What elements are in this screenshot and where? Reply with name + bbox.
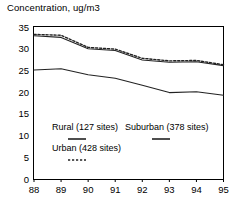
- data-series-group: [34, 34, 224, 95]
- x-tick-label: 89: [56, 184, 67, 195]
- x-tick-label: 91: [110, 184, 121, 195]
- y-tick-label: 30: [18, 43, 29, 54]
- x-tick-label: 94: [191, 184, 202, 195]
- y-tick-label: 15: [18, 108, 29, 119]
- legend-label: Suburban (378 sites): [125, 122, 209, 132]
- y-tick-label: 25: [18, 65, 29, 76]
- chart-legend: Rural (127 sites)Suburban (378 sites)Urb…: [52, 122, 209, 160]
- x-tick-label: 90: [83, 184, 94, 195]
- series-line: [34, 69, 224, 95]
- y-tick-label: 35: [18, 22, 29, 33]
- legend-label: Rural (127 sites): [52, 122, 118, 132]
- plot-frame: [34, 27, 224, 180]
- x-tick-label: 93: [164, 184, 175, 195]
- chart-figure: Concentration, ug/m3 05101520253035 8889…: [0, 0, 237, 203]
- plot-area: 05101520253035 8889909192939495 Rural (1…: [0, 0, 237, 203]
- x-axis-tick-labels: 8889909192939495: [29, 184, 229, 195]
- series-line: [34, 34, 224, 64]
- y-tick-label: 20: [18, 87, 29, 98]
- x-tick-label: 95: [218, 184, 229, 195]
- y-tick-label: 0: [24, 174, 29, 185]
- x-tick-label: 88: [29, 184, 40, 195]
- legend-label: Urban (428 sites): [52, 143, 121, 153]
- y-axis-tick-labels: 05101520253035: [18, 22, 29, 185]
- y-tick-label: 5: [24, 152, 29, 163]
- y-tick-label: 10: [18, 130, 29, 141]
- x-tick-label: 92: [137, 184, 148, 195]
